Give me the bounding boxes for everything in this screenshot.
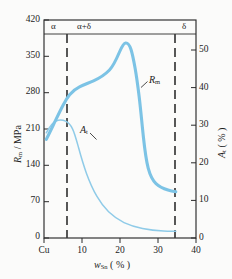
right-axis-ticks bbox=[191, 50, 196, 238]
curve-label-at-sub: t bbox=[86, 128, 88, 135]
ytick-label-left-2: 280 bbox=[8, 86, 40, 96]
ytick-label-left-6: 0 bbox=[8, 231, 40, 241]
left-axis-title-sub: m bbox=[16, 152, 23, 157]
right-axis-title: At ( % ) bbox=[216, 128, 227, 158]
bottom-axis-title-unit: ( % ) bbox=[108, 259, 131, 270]
right-axis-title-sub: t bbox=[220, 150, 227, 152]
curve-label-at: At bbox=[80, 124, 88, 135]
xtick-label-2: 30 bbox=[146, 245, 170, 255]
curve-rm bbox=[46, 43, 176, 192]
leader-line-at bbox=[90, 133, 97, 140]
left-axis-title: Rm / MPa bbox=[12, 125, 23, 163]
xtick-label-0: 10 bbox=[70, 245, 94, 255]
phase-label-delta: δ bbox=[182, 21, 186, 31]
ytick-label-right-4: 10 bbox=[199, 194, 209, 204]
right-axis-title-main: A bbox=[216, 152, 227, 158]
phase-label-alpha-delta: α+δ bbox=[77, 21, 91, 31]
xtick-label-origin: Cu bbox=[32, 245, 56, 255]
ytick-label-left-5: 70 bbox=[8, 195, 40, 205]
ytick-label-right-1: 40 bbox=[199, 82, 209, 92]
bottom-axis-title-sub: Sn bbox=[101, 263, 108, 270]
curve-label-rm-sub: m bbox=[155, 78, 160, 85]
bottom-axis-ticks bbox=[44, 238, 196, 243]
ytick-label-right-3: 20 bbox=[199, 157, 209, 167]
figure-container: 420 350 280 210 140 70 0 50 40 30 20 10 … bbox=[0, 0, 232, 279]
left-axis-title-unit: / MPa bbox=[12, 125, 23, 152]
phase-label-alpha: α bbox=[51, 21, 56, 31]
left-axis-title-main: R bbox=[12, 157, 23, 163]
xtick-label-3: 40 bbox=[184, 245, 208, 255]
right-axis-title-unit: ( % ) bbox=[216, 128, 227, 151]
curve-label-rm: Rm bbox=[149, 74, 160, 85]
ytick-label-right-2: 30 bbox=[199, 119, 209, 129]
leader-line-rm bbox=[141, 82, 148, 88]
ytick-label-left-0: 420 bbox=[8, 14, 40, 24]
bottom-axis-title: wSn ( % ) bbox=[94, 259, 130, 270]
ytick-label-right-0: 50 bbox=[199, 44, 209, 54]
ytick-label-left-1: 350 bbox=[8, 50, 40, 60]
ytick-label-right-5: 0 bbox=[199, 232, 204, 242]
bottom-axis-title-main: w bbox=[94, 259, 101, 270]
xtick-label-1: 20 bbox=[108, 245, 132, 255]
curve-at bbox=[46, 120, 176, 231]
